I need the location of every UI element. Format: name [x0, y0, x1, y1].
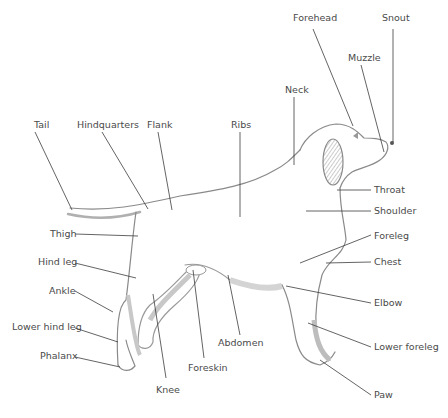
- label-flank: Flank: [147, 120, 172, 130]
- label-phalanx: Phalanx: [40, 351, 78, 361]
- label-foreskin: Foreskin: [188, 363, 228, 373]
- label-forehead: Forehead: [293, 13, 337, 23]
- label-muzzle: Muzzle: [348, 53, 381, 63]
- label-ankle: Ankle: [49, 286, 76, 296]
- label-thigh: Thigh: [50, 229, 77, 239]
- label-throat: Throat: [374, 185, 405, 195]
- label-shoulder: Shoulder: [374, 206, 416, 216]
- label-snout: Snout: [382, 13, 410, 23]
- label-ribs: Ribs: [231, 120, 251, 130]
- label-paw: Paw: [374, 390, 393, 400]
- label-knee: Knee: [156, 385, 180, 395]
- label-chest: Chest: [374, 257, 401, 267]
- label-elbow: Elbow: [374, 298, 402, 308]
- label-hindquarters: Hindquarters: [77, 120, 139, 130]
- dog-anatomy-diagram: Forehead Snout Muzzle Neck Tail Hindquar…: [0, 0, 448, 418]
- label-lower-foreleg: Lower foreleg: [374, 342, 439, 352]
- label-foreleg: Foreleg: [374, 231, 409, 241]
- label-lower-hind-leg: Lower hind leg: [12, 322, 82, 332]
- label-neck: Neck: [285, 85, 309, 95]
- leader-lines: [35, 29, 393, 395]
- label-tail: Tail: [34, 120, 49, 130]
- label-abdomen: Abdomen: [218, 338, 264, 348]
- label-hind-leg: Hind leg: [38, 257, 77, 267]
